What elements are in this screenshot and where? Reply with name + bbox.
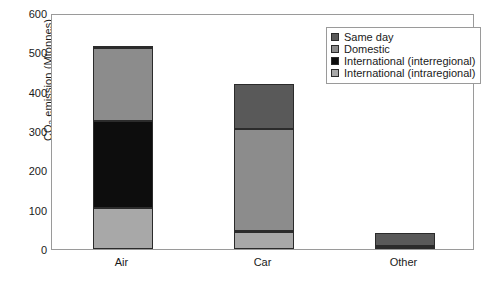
x-axis-tick-labels: AirCarOther bbox=[51, 256, 474, 274]
y-axis-tick-label: 300 bbox=[7, 126, 47, 138]
chart-screenshot: 0100200300400500600 CO2 emission (Mtonne… bbox=[0, 0, 481, 283]
bar-segment bbox=[93, 46, 153, 49]
legend-swatch-icon bbox=[331, 57, 339, 65]
y-axis-tick-label: 200 bbox=[7, 165, 47, 177]
bar-segment bbox=[93, 48, 153, 121]
legend-item: Same day bbox=[331, 31, 475, 43]
legend-item-label: Same day bbox=[344, 31, 394, 43]
bar-segment bbox=[234, 232, 294, 249]
legend-item-label: Domestic bbox=[344, 43, 390, 55]
y-axis-tick-label: 600 bbox=[7, 8, 47, 20]
bar-car bbox=[234, 84, 294, 249]
bar-segment bbox=[234, 84, 294, 129]
x-axis-tick-label: Car bbox=[218, 256, 308, 268]
legend-swatch-icon bbox=[331, 69, 339, 77]
bar-segment bbox=[375, 233, 435, 246]
legend-item-label: International (interregional) bbox=[344, 55, 475, 67]
y-axis-tick-label: 500 bbox=[7, 47, 47, 59]
legend-swatch-icon bbox=[331, 45, 339, 53]
x-axis-tick-label: Other bbox=[359, 256, 449, 268]
bar-segment bbox=[93, 208, 153, 249]
plot-area: Same dayDomesticInternational (interregi… bbox=[51, 14, 474, 250]
y-axis-tick-label: 100 bbox=[7, 205, 47, 217]
legend-item: International (interregional) bbox=[331, 55, 475, 67]
bar-segment bbox=[234, 129, 294, 231]
bar-other bbox=[375, 232, 435, 249]
legend: Same dayDomesticInternational (interregi… bbox=[326, 27, 481, 84]
legend-swatch-icon bbox=[331, 33, 339, 41]
bar-segment bbox=[93, 121, 153, 208]
bar-air bbox=[93, 46, 153, 249]
y-axis-tick-labels: 0100200300400500600 bbox=[3, 14, 47, 250]
legend-item: International (intraregional) bbox=[331, 67, 475, 79]
legend-item: Domestic bbox=[331, 43, 475, 55]
y-axis-tick-label: 400 bbox=[7, 87, 47, 99]
x-axis-tick-label: Air bbox=[77, 256, 167, 268]
y-axis-tick-label: 0 bbox=[7, 244, 47, 256]
legend-item-label: International (intraregional) bbox=[344, 67, 475, 79]
